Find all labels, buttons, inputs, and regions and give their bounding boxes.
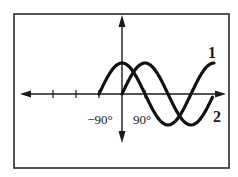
y-axis-bottom-arrow-icon: [119, 131, 126, 143]
y-axis-top-arrow-icon: [119, 15, 126, 27]
curve-1-label: 1: [208, 44, 216, 61]
sine-cosine-plot: −90° 90° 1 2: [0, 0, 238, 177]
x-axis-right-arrow-icon: [215, 91, 226, 98]
x-axis-left-arrow-icon: [20, 91, 31, 98]
curve-2-label: 2: [213, 108, 221, 125]
tick-label-neg90: −90°: [87, 112, 113, 127]
tick-label-90: 90°: [133, 112, 151, 127]
phase-diagram: −90° 90° 1 2: [0, 0, 238, 177]
